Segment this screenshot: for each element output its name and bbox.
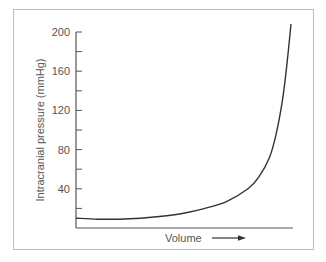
- chart-plot: 4080120160200 Intracranial pressure (mmH…: [0, 0, 326, 262]
- y-tick-label: 200: [52, 26, 70, 38]
- pressure-volume-curve: [76, 24, 291, 219]
- y-tick-label: 80: [58, 144, 70, 156]
- volume-arrow-icon: [212, 235, 246, 241]
- x-axis-label: Volume: [165, 232, 202, 244]
- y-ticks: 4080120160200: [52, 26, 82, 208]
- y-tick-label: 160: [52, 65, 70, 77]
- axes: [76, 32, 293, 228]
- y-tick-label: 120: [52, 104, 70, 116]
- y-axis-label: Intracranial pressure (mmHg): [34, 58, 46, 201]
- y-tick-label: 40: [58, 183, 70, 195]
